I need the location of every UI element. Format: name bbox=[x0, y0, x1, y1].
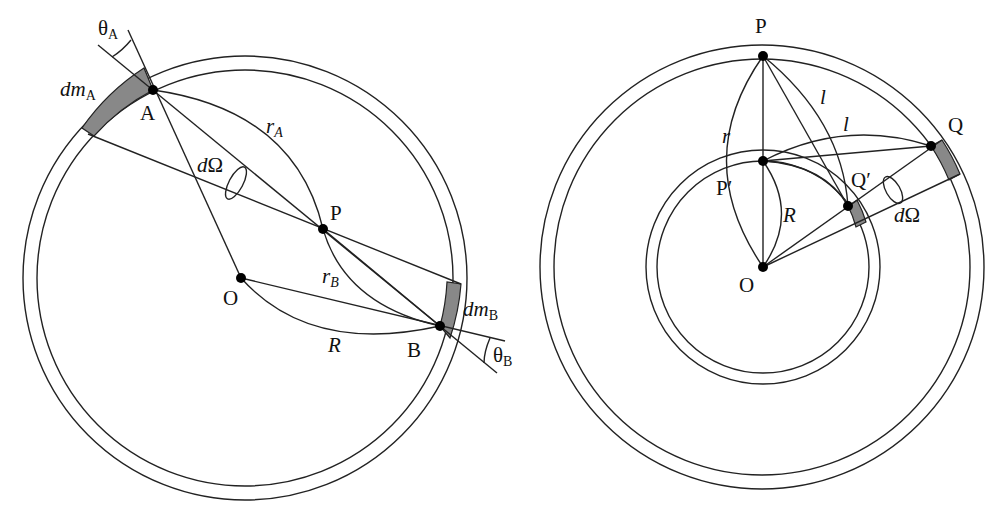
label-R-left: R bbox=[327, 333, 341, 357]
gravitation-shell-diagram: θA dmA A rA dΩ P O rB dmB R B θB bbox=[0, 0, 999, 518]
point-Pprime bbox=[758, 156, 768, 166]
label-dmB: dmB bbox=[463, 297, 498, 323]
arc-R-right bbox=[763, 161, 782, 267]
label-thetaB: θB bbox=[493, 343, 512, 369]
label-Q: Q bbox=[948, 113, 963, 137]
point-O bbox=[236, 273, 246, 283]
point-P-right bbox=[758, 51, 768, 61]
label-rB: rB bbox=[322, 264, 339, 290]
label-l-lower: l bbox=[843, 112, 849, 136]
line-cone-lower bbox=[88, 134, 461, 284]
point-O-right bbox=[758, 262, 768, 272]
point-B bbox=[435, 321, 445, 331]
point-Qprime bbox=[843, 201, 853, 211]
line-Pprime-Q bbox=[763, 146, 931, 161]
label-O-left: O bbox=[223, 286, 238, 310]
label-r: r bbox=[722, 124, 731, 148]
solid-angle-ellipse bbox=[221, 164, 250, 202]
right-diagram: P l l Q r P′ Q′ R dΩ O bbox=[540, 14, 984, 489]
point-A bbox=[148, 85, 158, 95]
angle-arc-thetaB bbox=[484, 338, 490, 363]
label-dOmega-right: dΩ bbox=[894, 203, 920, 227]
label-B: B bbox=[407, 338, 421, 362]
label-O-right: O bbox=[739, 273, 754, 297]
label-Pprime: P′ bbox=[716, 176, 732, 200]
label-P-left: P bbox=[330, 201, 342, 225]
point-Q bbox=[926, 141, 936, 151]
label-thetaA: θA bbox=[98, 16, 119, 42]
label-dmA: dmA bbox=[60, 77, 97, 103]
label-A: A bbox=[140, 101, 156, 125]
label-R-right: R bbox=[782, 203, 796, 227]
left-diagram: θA dmA A rA dΩ P O rB dmB R B θB bbox=[23, 16, 512, 500]
angle-arc-thetaA bbox=[112, 40, 131, 57]
point-P bbox=[318, 224, 328, 234]
arc-R bbox=[241, 278, 440, 334]
label-rA: rA bbox=[266, 114, 283, 140]
label-l-upper: l bbox=[820, 85, 826, 109]
label-Qprime: Q′ bbox=[851, 168, 871, 192]
label-P-right: P bbox=[755, 14, 767, 38]
solid-angle-ellipse-right bbox=[879, 174, 906, 207]
label-dOmega-left: dΩ bbox=[197, 153, 223, 177]
line-O-A-extended bbox=[128, 30, 241, 278]
